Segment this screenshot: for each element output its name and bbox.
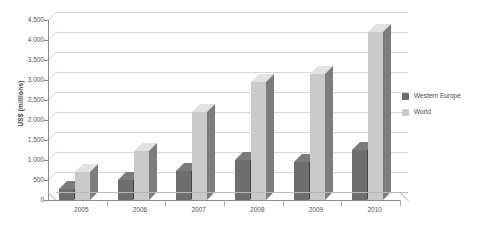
bar-world-2009 (310, 74, 325, 200)
y-axis-tick-label: 4,000 (10, 36, 44, 43)
y-axis-tick-label: 1,500 (10, 136, 44, 143)
bar-front-face (59, 189, 74, 200)
y-axis-tick-label: 4,500 (10, 16, 44, 23)
x-axis-tick-label: 2009 (292, 206, 340, 214)
bar-side-face (383, 24, 391, 200)
y-axis-tick-label: 2,500 (10, 96, 44, 103)
gridline (56, 92, 408, 93)
legend-label-western-europe: Western Europe (414, 92, 461, 100)
y-axis-tick (44, 120, 49, 121)
bar-western-europe-2006 (118, 180, 133, 200)
y-axis-title: US$ (millions) (17, 62, 24, 146)
bar-front-face (310, 74, 325, 200)
y-axis-tick-label: 3,500 (10, 56, 44, 63)
x-axis-tick (400, 200, 401, 206)
y-axis-tick (44, 160, 49, 161)
bar-front-face (176, 171, 191, 200)
legend-item-western-europe[interactable]: Western Europe (402, 92, 490, 100)
gridline (56, 112, 408, 113)
y-axis-tick (44, 40, 49, 41)
bar-front-face (294, 162, 309, 200)
x-axis-tick (283, 200, 284, 206)
y-axis-tick (44, 140, 49, 141)
y-axis-tick (44, 60, 49, 61)
gridline (56, 132, 408, 133)
x-axis-tick (165, 200, 166, 206)
y-axis-line (48, 20, 49, 201)
x-axis-tick-label: 2006 (116, 206, 164, 214)
bar-chart: 05001,0001,5002,0002,5003,0003,5004,0004… (0, 0, 490, 226)
bar-front-face (368, 32, 383, 200)
bar-side-face (266, 74, 274, 200)
legend-label-world: World (414, 108, 431, 116)
legend-swatch-world (402, 109, 409, 116)
bar-side-face (325, 66, 333, 200)
bar-front-face (118, 180, 133, 200)
x-axis-tick-label: 2008 (233, 206, 281, 214)
x-axis-tick-label: 2010 (351, 206, 399, 214)
x-axis-tick (224, 200, 225, 206)
bar-world-2005 (75, 172, 90, 200)
y-axis-tick-label: 1,000 (10, 156, 44, 163)
y-axis-tick (44, 20, 49, 21)
bar-western-europe-2005 (59, 189, 74, 200)
gridline (56, 32, 408, 33)
bar-world-2010 (368, 32, 383, 200)
bar-western-europe-2008 (235, 160, 250, 200)
bar-front-face (235, 160, 250, 200)
gridline (56, 72, 408, 73)
bar-world-2007 (192, 112, 207, 200)
bar-western-europe-2009 (294, 162, 309, 200)
legend-item-world[interactable]: World (402, 108, 490, 116)
bar-front-face (251, 82, 266, 200)
x-axis-tick (107, 200, 108, 206)
chart-legend: Western Europe World (402, 92, 490, 124)
y-axis-tick-label: 2,000 (10, 116, 44, 123)
x-axis-tick-label: 2005 (57, 206, 105, 214)
x-axis-tick-label: 2007 (175, 206, 223, 214)
x-axis-back-edge (56, 192, 408, 193)
bar-world-2008 (251, 82, 266, 200)
gridline (56, 12, 408, 13)
bar-front-face (192, 112, 207, 200)
x-axis-tick (341, 200, 342, 206)
gridline (56, 52, 408, 53)
y-axis-tick (44, 100, 49, 101)
legend-swatch-western-europe (402, 93, 409, 100)
y-axis-tick-label: 3,000 (10, 76, 44, 83)
bar-front-face (75, 172, 90, 200)
bar-side-face (207, 104, 215, 200)
y-axis-tick-label: 500 (10, 176, 44, 183)
y-axis-tick (44, 180, 49, 181)
bar-western-europe-2007 (176, 171, 191, 200)
y-axis-tick-label: 0 (10, 196, 44, 203)
y-axis-tick (44, 80, 49, 81)
